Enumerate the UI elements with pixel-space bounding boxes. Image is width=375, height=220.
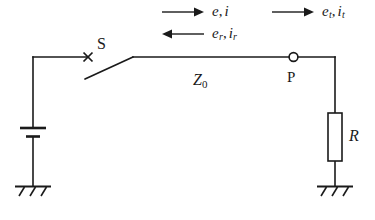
transmitted-separator: , [332, 3, 336, 19]
circuit-diagram: e,i et,it er,ir S Z0 P R [0, 0, 375, 220]
reflected-separator: , [223, 25, 227, 41]
node-p-label: P [287, 70, 295, 85]
battery-symbol [20, 128, 46, 137]
transmitted-wave-arrow [272, 8, 314, 17]
transmitted-voltage-symbol: e [322, 3, 329, 19]
incident-wave-arrow [162, 8, 204, 17]
reflected-wave-label: er,ir [212, 26, 237, 42]
impedance-subscript: 0 [202, 78, 208, 90]
impedance-symbol: Z [193, 71, 202, 88]
incident-voltage-symbol: e [212, 3, 219, 19]
reflected-wave-arrow [162, 30, 204, 39]
resistor-body [328, 113, 342, 161]
circuit-schematic-svg [0, 0, 375, 220]
node-p-terminal [289, 53, 298, 62]
resistor-label: R [349, 128, 359, 144]
transmitted-current-subscript: t [342, 9, 345, 20]
transmitted-wave-label: et,it [322, 4, 345, 20]
switch-label: S [97, 36, 106, 52]
ground-left-icon [15, 187, 51, 197]
reflected-current-subscript: r [233, 31, 237, 42]
line-impedance-label: Z0 [193, 72, 207, 90]
incident-wave-label: e,i [212, 4, 229, 19]
incident-separator: , [219, 3, 223, 19]
reflected-voltage-symbol: e [212, 25, 219, 41]
incident-current-symbol: i [224, 3, 228, 19]
ground-right-icon [317, 187, 353, 197]
